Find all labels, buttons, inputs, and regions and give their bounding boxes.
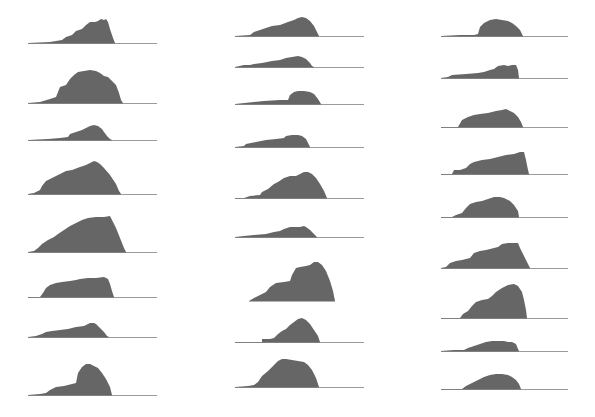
histogram-silhouette — [235, 91, 321, 105]
histogram-panel — [441, 284, 568, 319]
histogram-panel — [235, 359, 364, 388]
histogram-silhouette — [28, 277, 114, 298]
histogram-grid — [0, 0, 595, 417]
histogram-silhouette — [235, 172, 327, 199]
histogram-panel — [235, 56, 364, 68]
histogram-panel — [235, 91, 364, 105]
column-2 — [235, 17, 364, 388]
histogram-silhouette — [235, 56, 314, 68]
histogram-silhouette — [441, 243, 530, 269]
histogram-panel — [441, 197, 568, 218]
histogram-panel — [441, 374, 568, 390]
histogram-panel — [235, 318, 364, 343]
histogram-silhouette — [249, 262, 335, 302]
histogram-silhouette — [28, 161, 121, 195]
histogram-silhouette — [28, 323, 109, 338]
histogram-silhouette — [235, 17, 319, 37]
histogram-silhouette — [441, 197, 519, 218]
histogram-panel — [441, 243, 568, 269]
histogram-panel — [28, 364, 157, 396]
histogram-silhouette — [28, 70, 123, 104]
histogram-panel — [235, 226, 364, 238]
histogram-panel — [235, 135, 364, 148]
histogram-panel — [28, 216, 157, 253]
histogram-panel — [235, 17, 364, 37]
histogram-panel — [249, 262, 335, 302]
histogram-panel — [441, 341, 568, 352]
histogram-panel — [28, 125, 157, 141]
histogram-silhouette — [235, 318, 320, 343]
histogram-panel — [28, 161, 157, 195]
histogram-silhouette — [235, 135, 310, 148]
histogram-panel — [28, 277, 157, 298]
histogram-silhouette — [441, 341, 519, 352]
histogram-panel — [441, 109, 568, 128]
histogram-silhouette — [441, 19, 523, 37]
histogram-silhouette — [441, 374, 521, 390]
histogram-silhouette — [441, 65, 519, 79]
column-1 — [28, 19, 157, 396]
histogram-panel — [28, 70, 157, 104]
histogram-panel — [235, 172, 364, 199]
histogram-silhouette — [28, 364, 112, 396]
column-3 — [441, 19, 568, 390]
histogram-panel — [441, 19, 568, 37]
histogram-panel — [28, 323, 157, 338]
histogram-silhouette — [28, 216, 126, 253]
histogram-silhouette — [28, 19, 115, 44]
histogram-silhouette — [235, 226, 317, 238]
histogram-panel — [441, 65, 568, 79]
histogram-silhouette — [235, 359, 319, 388]
histogram-silhouette — [28, 125, 112, 141]
histogram-silhouette — [441, 284, 527, 319]
histogram-silhouette — [441, 109, 523, 128]
histogram-silhouette — [441, 152, 529, 175]
histogram-panel — [28, 19, 157, 44]
histogram-panel — [441, 152, 568, 175]
